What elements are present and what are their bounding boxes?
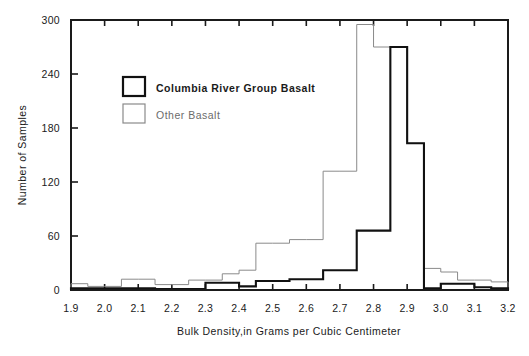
x-tick-label-3.1: 3.1: [467, 302, 483, 314]
x-tick-label-2.7: 2.7: [332, 302, 348, 314]
y-tick-label-300: 300: [42, 14, 60, 26]
x-tick-label-2.6: 2.6: [299, 302, 315, 314]
series-outline-other-basalt: [71, 25, 508, 291]
x-tick-label-2.1: 2.1: [130, 302, 146, 314]
x-tick-label-2.2: 2.2: [164, 302, 180, 314]
y-axis-title: Number of Samples: [16, 105, 28, 205]
histogram-figure: 060120180240300 1.92.02.12.22.32.42.52.6…: [0, 0, 529, 356]
y-tick-label-0: 0: [54, 284, 60, 296]
y-tick-label-240: 240: [42, 68, 60, 80]
y-axis-ticks: [71, 74, 78, 236]
y-tick-label-60: 60: [48, 230, 60, 242]
x-axis-title-group: Bulk Density,in Grams per Cubic Centimet…: [177, 325, 401, 337]
x-tick-label-2.4: 2.4: [231, 302, 247, 314]
legend-swatch-other-basalt: [123, 104, 145, 123]
x-tick-label-2.5: 2.5: [265, 302, 281, 314]
x-tick-label-3.0: 3.0: [433, 302, 449, 314]
y-tick-label-180: 180: [42, 122, 60, 134]
legend-swatch-columbia-river-group-basalt: [123, 77, 145, 96]
x-tick-label-2.8: 2.8: [366, 302, 382, 314]
x-tick-label-2.3: 2.3: [198, 302, 214, 314]
plot-border: [71, 20, 508, 290]
x-axis-title: Bulk Density,in Grams per Cubic Centimet…: [177, 325, 401, 337]
x-tick-label-2.0: 2.0: [97, 302, 113, 314]
y-tick-label-120: 120: [42, 176, 60, 188]
chart-canvas: 060120180240300 1.92.02.12.22.32.42.52.6…: [0, 0, 529, 356]
x-tick-label-1.9: 1.9: [63, 302, 79, 314]
x-axis-tick-labels: 1.92.02.12.22.32.42.52.62.72.82.93.03.13…: [63, 302, 516, 314]
x-tick-label-3.2: 3.2: [500, 302, 516, 314]
x-axis-ticks: [105, 20, 475, 290]
histogram-series-layer: [71, 25, 508, 291]
y-axis-title-group: Number of Samples: [16, 105, 28, 205]
x-tick-label-2.9: 2.9: [399, 302, 415, 314]
chart-legend: Columbia River Group Basalt Other Basalt: [123, 77, 315, 123]
legend-label-columbia-river-group-basalt: Columbia River Group Basalt: [156, 82, 315, 94]
legend-label-other-basalt: Other Basalt: [156, 109, 220, 121]
y-axis-tick-labels: 060120180240300: [42, 14, 60, 296]
plot-frame: [71, 20, 508, 290]
